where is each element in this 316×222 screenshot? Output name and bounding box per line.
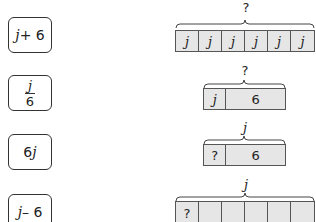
cell-j: j: [204, 89, 226, 109]
cell: j: [176, 31, 199, 51]
cell-6: 6: [226, 89, 285, 109]
cell: j: [291, 31, 314, 51]
tape-diagram-3[interactable]: ? 6: [203, 144, 286, 166]
cell: j: [245, 31, 268, 51]
expression-card-6j[interactable]: 6 j: [8, 134, 52, 170]
cell: [222, 202, 245, 222]
plus-6: + 6: [20, 27, 45, 43]
expression-card-j-plus-6[interactable]: j + 6: [8, 17, 52, 53]
diagram-1-label: ?: [236, 0, 256, 15]
diagram-3-label: j: [235, 120, 255, 135]
brace-icon: [203, 136, 286, 144]
fraction: j 6: [25, 79, 35, 108]
cell-6: 6: [226, 145, 285, 165]
cell: [245, 202, 268, 222]
brace-icon: [175, 193, 315, 201]
cell: [199, 202, 222, 222]
tape-diagram-4[interactable]: ?: [175, 201, 315, 222]
brace-icon: [175, 20, 315, 28]
cell: [291, 202, 314, 222]
numerator: j: [25, 79, 35, 94]
diagram-4-label: j: [236, 177, 256, 192]
cell-unknown: ?: [204, 145, 226, 165]
tape-diagram-1[interactable]: j j j j j j: [175, 30, 315, 52]
cell: j: [222, 31, 245, 51]
denominator: 6: [26, 94, 34, 108]
cell: j: [268, 31, 291, 51]
minus-6: – 6: [22, 204, 42, 220]
expression-card-j-minus-6[interactable]: j – 6: [8, 194, 52, 222]
cell: [268, 202, 291, 222]
diagram-2-label: ?: [235, 63, 255, 78]
expression-card-j-over-6[interactable]: j 6: [8, 75, 52, 111]
var-j: j: [32, 144, 36, 160]
coefficient: 6: [23, 144, 32, 160]
brace-icon: [203, 80, 286, 88]
tape-diagram-2[interactable]: j 6: [203, 88, 286, 110]
cell: j: [199, 31, 222, 51]
cell-unknown: ?: [176, 202, 199, 222]
